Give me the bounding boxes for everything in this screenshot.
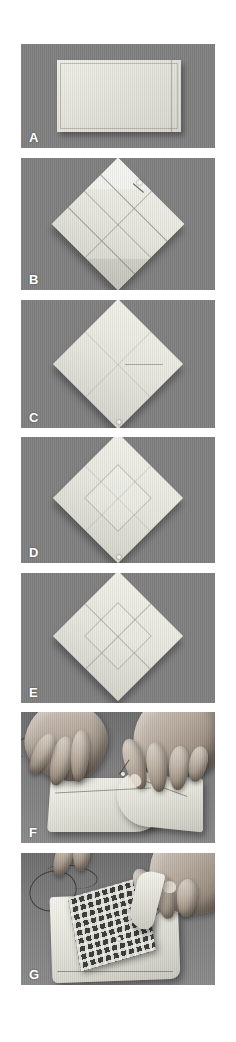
panel-e: E bbox=[21, 573, 215, 703]
cloth-fold-line bbox=[171, 60, 172, 132]
panel-label-d: D bbox=[29, 546, 39, 560]
stitch-point bbox=[121, 772, 125, 776]
panel-label-a: A bbox=[29, 131, 39, 145]
diamond-crossed-creases bbox=[53, 573, 183, 701]
pin-head bbox=[117, 420, 121, 424]
diamond-creased bbox=[53, 300, 183, 428]
crease-highlight bbox=[125, 364, 163, 365]
panel-d-image bbox=[21, 437, 215, 563]
panel-label-b: B bbox=[29, 273, 39, 287]
cloth-flap-lower bbox=[86, 227, 150, 290]
panel-label-c: C bbox=[29, 411, 39, 425]
panel-d: D bbox=[21, 437, 215, 563]
panel-b-image bbox=[21, 158, 215, 290]
panel-g-image bbox=[21, 853, 215, 985]
panel-c-image bbox=[21, 300, 215, 428]
panel-a-image bbox=[21, 44, 215, 148]
cloth-hem bbox=[60, 63, 178, 129]
diamond-corners-folded-in bbox=[52, 158, 185, 290]
napkin-bottom-edge bbox=[57, 971, 173, 972]
panel-g: G bbox=[21, 853, 215, 985]
panel-b: B bbox=[21, 158, 215, 290]
panel-e-image bbox=[21, 573, 215, 703]
pin-head bbox=[137, 180, 142, 185]
panel-label-g: G bbox=[29, 968, 39, 982]
rectangular-cloth bbox=[57, 60, 181, 132]
panel-f-image bbox=[21, 712, 215, 843]
panel-a: A bbox=[21, 44, 215, 148]
right-fingernail bbox=[163, 881, 176, 893]
panel-label-e: E bbox=[29, 686, 38, 700]
figure-panel-grid: A B C bbox=[0, 0, 236, 1042]
pin-head bbox=[117, 555, 121, 559]
diamond-inner-square bbox=[53, 437, 183, 563]
panel-c: C bbox=[21, 300, 215, 428]
pin-head bbox=[117, 937, 121, 941]
panel-label-f: F bbox=[29, 826, 37, 840]
panel-f: F bbox=[21, 712, 215, 843]
